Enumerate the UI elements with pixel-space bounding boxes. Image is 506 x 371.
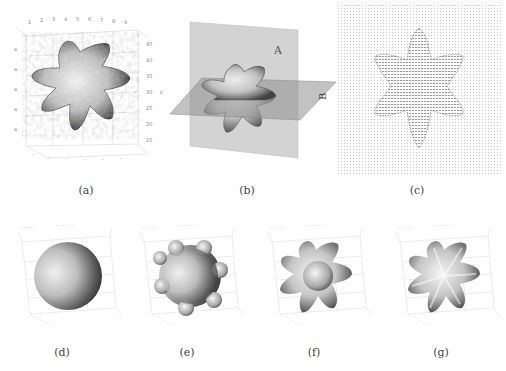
svg-text:20: 20 xyxy=(146,121,152,127)
svg-text:-: - xyxy=(84,156,86,162)
caption-g: (g) xyxy=(421,346,461,359)
caption-a: (a) xyxy=(66,184,106,197)
panel-e: . . . . .. . . . . . xyxy=(134,222,244,332)
sphere-isosurface: . . . . .. . . . . . xyxy=(12,222,122,332)
svg-text:-: - xyxy=(120,155,122,161)
svg-text:25: 25 xyxy=(146,105,152,111)
star-surface xyxy=(32,41,130,130)
svg-text:. . . . .: . . . . . xyxy=(142,223,157,229)
svg-text:-: - xyxy=(102,156,104,162)
svg-text:. . . . . .: . . . . . . xyxy=(434,222,452,227)
star-with-planes: A B xyxy=(170,18,338,163)
svg-text:-: - xyxy=(32,151,34,157)
svg-text:-: - xyxy=(66,155,68,161)
svg-text:a: a xyxy=(14,126,17,132)
svg-text:30: 30 xyxy=(146,89,152,95)
smooth-star-isosurface: . . . . .. . . . . . xyxy=(390,222,502,332)
svg-text:15: 15 xyxy=(146,137,152,143)
svg-text:. . . . . .: . . . . . . xyxy=(56,222,74,227)
svg-text:7: 7 xyxy=(100,17,103,23)
panel-d: . . . . .. . . . . . xyxy=(12,222,122,332)
svg-text:8: 8 xyxy=(112,18,115,24)
panel-a: 123 456 789 45 40 35 30 25 20 15 z aaa a… xyxy=(8,6,168,166)
svg-text:a: a xyxy=(14,66,17,72)
svg-text:. . . . . .: . . . . . . xyxy=(178,222,196,227)
caption-f: (f) xyxy=(294,346,334,359)
bumpy-sphere-isosurface: . . . . .. . . . . . xyxy=(134,222,244,332)
svg-text:. . . . . .: . . . . . . xyxy=(306,222,324,227)
svg-text:40: 40 xyxy=(146,57,152,63)
svg-text:45: 45 xyxy=(146,41,152,47)
svg-text:z: z xyxy=(160,89,163,95)
svg-text:4: 4 xyxy=(64,16,67,22)
svg-text:5: 5 xyxy=(76,16,79,22)
vector-field xyxy=(337,4,501,174)
left-ticks: aaa aa xyxy=(14,46,17,132)
svg-text:. . . . .: . . . . . xyxy=(398,223,413,229)
svg-text:a: a xyxy=(14,46,17,52)
star-isosurface-noisy: 123 456 789 45 40 35 30 25 20 15 z aaa a… xyxy=(8,6,168,166)
plane-label-a: A xyxy=(273,44,283,57)
caption-b: (b) xyxy=(227,184,267,197)
caption-c: (c) xyxy=(397,184,437,197)
plane-label-b: B xyxy=(317,93,328,100)
svg-text:-: - xyxy=(48,154,50,160)
sphere-surface xyxy=(34,242,102,310)
svg-text:. . . . .: . . . . . xyxy=(20,223,35,229)
svg-text:9: 9 xyxy=(124,19,127,25)
svg-text:a: a xyxy=(14,86,17,92)
core-sphere xyxy=(303,261,333,291)
panel-b: A B xyxy=(170,18,338,163)
top-ticks: 123 456 789 xyxy=(28,16,127,25)
svg-text:a: a xyxy=(14,106,17,112)
panel-c xyxy=(337,4,501,174)
z-axis-ticks: 45 40 35 30 25 20 15 z xyxy=(146,41,163,143)
caption-d: (d) xyxy=(42,346,82,359)
panel-g: . . . . .. . . . . . xyxy=(390,222,502,332)
caption-e: (e) xyxy=(167,346,207,359)
svg-text:2: 2 xyxy=(40,17,43,23)
svg-text:. . . . .: . . . . . xyxy=(270,223,285,229)
svg-text:3: 3 xyxy=(52,16,55,22)
svg-text:35: 35 xyxy=(146,73,152,79)
panel-f: . . . . .. . . . . . xyxy=(262,222,372,332)
star-with-core-isosurface: . . . . .. . . . . . xyxy=(262,222,372,332)
svg-text:1: 1 xyxy=(28,19,31,25)
bumpy-sphere-surface xyxy=(153,240,228,316)
svg-text:6: 6 xyxy=(88,16,91,22)
